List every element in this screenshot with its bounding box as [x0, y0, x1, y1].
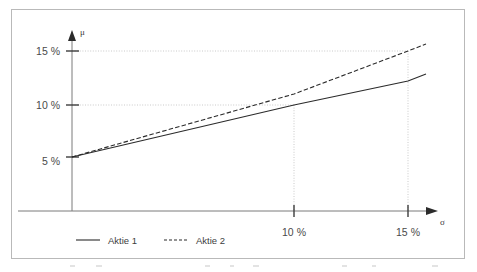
figure-frame: μ σ 15 % 10 % 5 % 10 % 15 % Aktie 1 Akti… — [11, 9, 465, 259]
sigma-axis-arrow — [426, 207, 438, 215]
y-tick-label-10: 10 % — [36, 99, 60, 111]
scan-speck — [205, 265, 210, 267]
mu-axis-arrow — [68, 30, 76, 41]
scan-speck — [432, 265, 438, 267]
y-tick-label-5: 5 % — [42, 155, 60, 167]
risk-return-chart: μ σ 15 % 10 % 5 % 10 % 15 % Aktie 1 Akti… — [12, 10, 464, 258]
series-line-aktie-2 — [72, 44, 426, 157]
mu-axis-label: μ — [80, 27, 85, 37]
x-tick-label-10: 10 % — [282, 226, 306, 238]
x-tick-label-15: 15 % — [396, 226, 420, 238]
series-line-aktie-1 — [72, 74, 426, 157]
scan-speck — [253, 265, 259, 267]
legend-label-aktie-2: Aktie 2 — [196, 235, 225, 246]
y-tick-label-15: 15 % — [36, 45, 60, 57]
page-canvas: μ σ 15 % 10 % 5 % 10 % 15 % Aktie 1 Akti… — [0, 0, 477, 272]
scan-speck — [342, 265, 347, 267]
scan-speck — [70, 265, 75, 267]
gridlines — [72, 51, 408, 211]
scan-speck — [96, 265, 102, 267]
tick-marks — [66, 51, 408, 217]
scan-speck — [230, 265, 234, 267]
chart-legend: Aktie 1 Aktie 2 — [76, 235, 225, 246]
legend-label-aktie-1: Aktie 1 — [108, 235, 137, 246]
sigma-axis-label: σ — [440, 217, 445, 227]
scan-speck — [372, 265, 376, 267]
scan-artifacts — [0, 262, 477, 272]
axis-group — [18, 30, 438, 215]
